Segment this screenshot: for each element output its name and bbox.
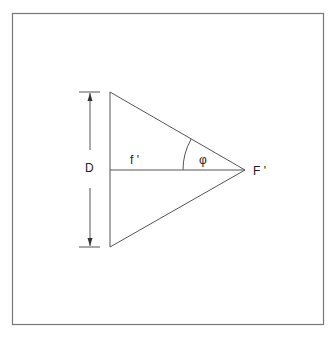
angle-label: φ	[199, 153, 207, 167]
focal-point-label: F '	[253, 164, 266, 178]
lower-ray-line	[110, 170, 245, 247]
diagram-frame	[13, 14, 324, 325]
aperture-cone	[110, 92, 245, 247]
optics-diagram: D f ' φ F '	[0, 0, 336, 338]
diameter-label: D	[85, 161, 94, 175]
focal-length-label: f '	[130, 153, 139, 167]
angle-arc	[183, 139, 191, 170]
arrowhead-up-icon	[88, 93, 93, 101]
arrowhead-down-icon	[88, 238, 93, 246]
